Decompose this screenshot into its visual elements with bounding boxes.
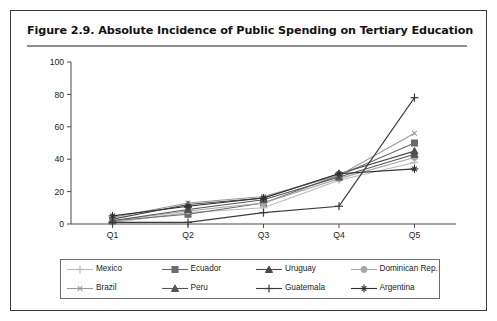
asterisk-icon: [67, 283, 93, 294]
legend-item-ecuador[interactable]: Ecuador: [156, 264, 251, 275]
line-chart: 020406080100Q1Q2Q3Q4Q5: [27, 52, 472, 252]
legend-item-label: Mexico: [96, 265, 122, 273]
triangle-icon: [162, 283, 188, 294]
y-tick-label: 100: [50, 57, 65, 67]
marker-square: [172, 267, 178, 273]
x-tick-label: Q3: [258, 230, 270, 240]
y-tick-label: 60: [54, 122, 64, 132]
legend-item-label: Guatemala: [285, 284, 325, 292]
y-tick-label: 20: [54, 187, 64, 197]
legend-item-label: Dominican Rep.: [380, 265, 438, 273]
title-divider: [27, 45, 467, 47]
marker-circle: [361, 267, 367, 273]
legend-item-label: Ecuador: [191, 265, 222, 273]
chart-legend: MexicoEcuadorUruguayDominican Rep.Brazil…: [60, 259, 440, 299]
x-tick-label: Q5: [409, 230, 421, 240]
legend-item-label: Peru: [191, 284, 208, 292]
legend-item-uruguay[interactable]: Uruguay: [250, 264, 345, 275]
x-tick-label: Q1: [107, 230, 119, 240]
square-icon: [162, 264, 188, 275]
marker-square: [411, 140, 417, 146]
figure-page: Figure 2.9. Absolute Incidence of Public…: [0, 0, 497, 321]
plus-icon: [256, 283, 282, 294]
triangle-icon: [256, 264, 282, 275]
plus-icon: [67, 264, 93, 275]
legend-item-label: Argentina: [380, 284, 415, 292]
page-title: Figure 2.9. Absolute Incidence of Public…: [27, 24, 457, 37]
legend-item-argentina[interactable]: Argentina: [345, 283, 440, 294]
legend-item-label: Brazil: [96, 284, 116, 292]
x-tick-label: Q4: [333, 230, 345, 240]
legend-item-brazil[interactable]: Brazil: [61, 283, 156, 294]
chart-plot-area: 020406080100Q1Q2Q3Q4Q5: [27, 52, 472, 252]
circle-icon: [351, 264, 377, 275]
legend-item-mexico[interactable]: Mexico: [61, 264, 156, 275]
legend-item-peru[interactable]: Peru: [156, 283, 251, 294]
legend-item-guatemala[interactable]: Guatemala: [250, 283, 345, 294]
y-tick-label: 0: [59, 219, 64, 229]
y-tick-label: 80: [54, 90, 64, 100]
star-icon: [351, 283, 377, 294]
legend-item-dominican-rep-[interactable]: Dominican Rep.: [345, 264, 440, 275]
legend-item-label: Uruguay: [285, 265, 316, 273]
x-tick-label: Q2: [182, 230, 194, 240]
y-tick-label: 40: [54, 154, 64, 164]
